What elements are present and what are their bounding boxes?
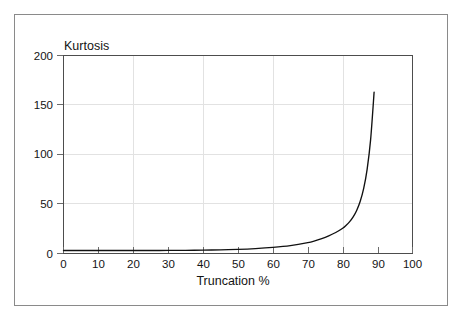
- y-tick-label: 100: [34, 148, 53, 160]
- y-tick-label: 150: [34, 99, 53, 111]
- x-tick-label: 80: [337, 258, 350, 270]
- x-tick-label: 50: [232, 258, 245, 270]
- x-tick-label: 40: [197, 258, 210, 270]
- y-tick-label: 0: [47, 248, 53, 260]
- kurtosis-truncation-line-chart: 0 50 100 150 200 0 10 20 30 40 50 60 70 …: [0, 0, 462, 320]
- x-tick-label: 10: [92, 258, 105, 270]
- y-tick-label: 50: [40, 198, 53, 210]
- y-tick-marks: [57, 56, 63, 254]
- y-tick-labels: 0 50 100 150 200: [34, 50, 53, 260]
- x-tick-label: 70: [302, 258, 315, 270]
- y-axis-title: Kurtosis: [64, 39, 109, 53]
- x-tick-label: 20: [127, 258, 140, 270]
- x-tick-label: 100: [403, 258, 422, 270]
- x-tick-labels: 0 10 20 30 40 50 60 70 80 90 100: [60, 258, 422, 270]
- x-tick-label: 0: [60, 258, 66, 270]
- x-tick-label: 30: [162, 258, 175, 270]
- x-tick-label: 90: [372, 258, 385, 270]
- horizontal-gridlines: [63, 105, 413, 204]
- kurtosis-curve: [64, 92, 375, 250]
- x-tick-label: 60: [267, 258, 280, 270]
- x-axis-title: Truncation %: [196, 274, 269, 288]
- figure-root: 0 50 100 150 200 0 10 20 30 40 50 60 70 …: [0, 0, 462, 320]
- y-tick-label: 200: [34, 50, 53, 62]
